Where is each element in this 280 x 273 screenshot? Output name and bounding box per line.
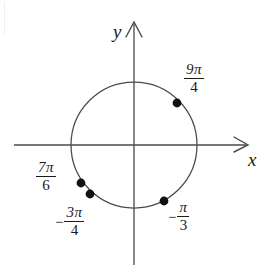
angle-numerator-negative-pi-over-3: π: [177, 200, 189, 217]
angle-numerator-9pi-over-4: 9π: [184, 62, 204, 79]
figure-canvas: [0, 0, 280, 273]
point-marker-7pi-over-6: [77, 179, 86, 188]
angle-label-9pi-over-4: 9π 4: [183, 62, 204, 95]
y-axis-label: y: [113, 22, 121, 41]
x-axis: [14, 137, 248, 152]
x-axis-label: x: [248, 150, 256, 169]
angle-denominator-7pi-over-6: 6: [40, 177, 52, 193]
point-marker-negative-3pi-over-4: [86, 190, 95, 199]
unit-circle-figure: y x 9π 4 7π 6 − 3π 4: [0, 0, 280, 273]
y-axis: [126, 22, 142, 265]
angle-label-negative-3pi-over-4: − 3π 4: [55, 205, 84, 238]
point-marker-9pi-over-4: [173, 99, 182, 108]
angle-denominator-negative-pi-over-3: 3: [178, 217, 190, 233]
angle-numerator-7pi-over-6: 7π: [36, 160, 56, 177]
angle-denominator-negative-3pi-over-4: 4: [69, 222, 81, 238]
angle-denominator-9pi-over-4: 4: [188, 79, 200, 95]
angle-label-negative-pi-over-3: − π 3: [168, 200, 189, 233]
angle-label-7pi-over-6: 7π 6: [35, 160, 56, 193]
angle-numerator-negative-3pi-over-4: 3π: [64, 205, 84, 222]
angle-sign-negative-pi-over-3: −: [168, 210, 177, 225]
angle-sign-negative-3pi-over-4: −: [55, 215, 64, 230]
